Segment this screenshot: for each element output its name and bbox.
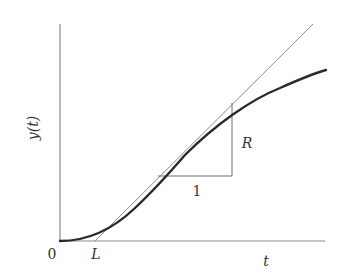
run-label: 1 (193, 183, 202, 199)
lag-label: L (90, 246, 100, 262)
slope-triangle (158, 103, 232, 176)
tangent-line (95, 24, 313, 241)
x-axis-label: t (263, 253, 269, 269)
response-curve (60, 70, 326, 241)
rise-label: R (241, 135, 253, 151)
y-axis-label: y(t) (25, 116, 41, 141)
diagram-canvas: y(t) t 0 L 1 R (0, 0, 352, 279)
origin-label: 0 (48, 246, 57, 262)
